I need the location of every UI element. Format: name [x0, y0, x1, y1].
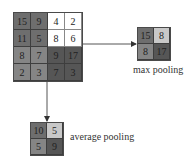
max-pool-cell: 15	[138, 28, 154, 44]
max-pool-cell: 8	[154, 28, 170, 44]
avg-pool-cell: 5	[31, 139, 47, 155]
max-pool-cell: 8	[138, 44, 154, 60]
max-pool-cell: 17	[154, 44, 170, 60]
max-pooling-output: 15 8 8 17	[137, 27, 171, 61]
average-pooling-output: 10 5 5 9	[30, 122, 64, 156]
average-pooling-label: average pooling	[70, 131, 134, 142]
avg-pool-cell: 5	[47, 123, 63, 139]
avg-pool-cell: 10	[31, 123, 47, 139]
max-pooling-label: max pooling	[133, 64, 183, 75]
avg-pool-cell: 9	[47, 139, 63, 155]
